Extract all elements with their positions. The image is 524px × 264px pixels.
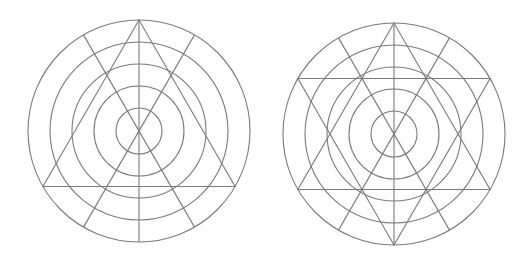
geometric-diagrams [0,0,524,264]
diagram-rings-triangle [28,20,250,242]
diagram-canvas [0,0,524,264]
diagram-rings-hexagram [283,23,505,245]
